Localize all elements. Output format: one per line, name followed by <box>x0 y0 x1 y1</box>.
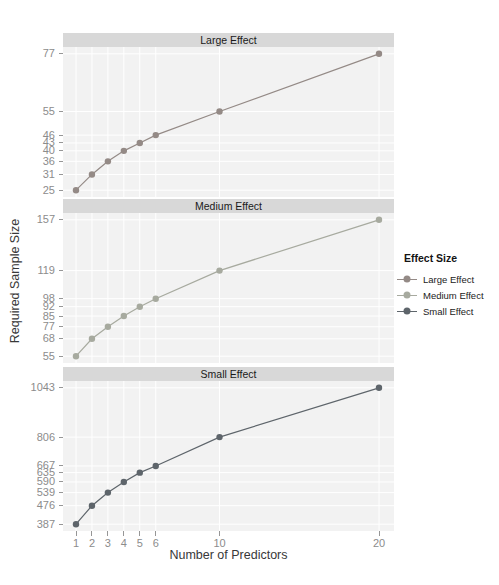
y-tick-label: 55 <box>0 106 55 117</box>
y-tick-label: 46 <box>0 130 55 141</box>
y-tick-label: 68 <box>0 333 55 344</box>
x-tick-mark <box>123 531 124 536</box>
x-tick-mark <box>107 531 108 536</box>
y-tick-label: 31 <box>0 169 55 180</box>
data-point <box>89 502 95 508</box>
y-tick-mark <box>59 465 63 466</box>
series-line <box>76 220 379 356</box>
data-point <box>137 469 143 475</box>
legend-item-medium-effect: Medium Effect <box>397 287 484 303</box>
y-tick-label: 119 <box>0 265 55 276</box>
legend-key <box>397 288 417 302</box>
x-tick-mark <box>91 531 92 536</box>
data-point <box>89 171 95 177</box>
point-marker-icon <box>404 308 411 315</box>
plot-canvas <box>63 47 394 197</box>
y-tick-mark <box>59 111 63 112</box>
y-tick-label: 476 <box>0 500 55 511</box>
legend-item-small-effect: Small Effect <box>397 303 484 319</box>
data-point <box>73 521 79 527</box>
data-point <box>216 108 222 114</box>
y-tick-mark <box>59 472 63 473</box>
data-point <box>153 463 159 469</box>
data-point <box>376 385 382 391</box>
data-point <box>137 304 143 310</box>
y-tick-mark <box>59 190 63 191</box>
plot-panel <box>63 213 394 363</box>
power-analysis-faceted-chart: Required Sample Size Large Effect Medium… <box>0 0 499 585</box>
x-tick-label: 20 <box>367 538 391 549</box>
data-point <box>121 479 127 485</box>
data-point <box>153 132 159 138</box>
x-tick-label: 6 <box>144 538 168 549</box>
y-tick-mark <box>59 356 63 357</box>
data-point <box>73 187 79 193</box>
y-tick-label: 85 <box>0 311 55 322</box>
y-tick-label: 1043 <box>0 382 55 393</box>
legend-label: Small Effect <box>423 306 474 317</box>
plot-canvas <box>63 381 394 531</box>
data-point <box>121 313 127 319</box>
y-tick-label: 157 <box>0 214 55 225</box>
y-tick-mark <box>59 219 63 220</box>
legend-label: Medium Effect <box>423 290 484 301</box>
data-point <box>105 324 111 330</box>
data-point <box>376 217 382 223</box>
x-tick-mark <box>139 531 140 536</box>
y-tick-label: 55 <box>0 351 55 362</box>
y-tick-mark <box>59 142 63 143</box>
y-tick-mark <box>59 387 63 388</box>
y-tick-mark <box>59 135 63 136</box>
y-tick-mark <box>59 270 63 271</box>
data-point <box>216 267 222 273</box>
y-tick-label: 667 <box>0 460 55 471</box>
y-tick-mark <box>59 437 63 438</box>
x-tick-mark <box>76 531 77 536</box>
y-tick-label: 77 <box>0 321 55 332</box>
y-tick-mark <box>59 53 63 54</box>
facet-strip-label: Small Effect <box>201 368 257 380</box>
legend: Effect Size Large Effect Medium Effect S… <box>390 252 484 319</box>
plot-panel <box>63 381 394 531</box>
y-tick-mark <box>59 174 63 175</box>
facet-strip: Large Effect <box>63 33 394 47</box>
y-tick-mark <box>59 316 63 317</box>
y-tick-mark <box>59 161 63 162</box>
y-tick-label: 539 <box>0 487 55 498</box>
y-tick-mark <box>59 492 63 493</box>
y-tick-mark <box>59 306 63 307</box>
legend-label: Large Effect <box>423 274 474 285</box>
facet-strip-label: Medium Effect <box>195 200 262 212</box>
y-tick-mark <box>59 524 63 525</box>
data-point <box>137 140 143 146</box>
x-tick-mark <box>379 531 380 536</box>
y-tick-label: 25 <box>0 185 55 196</box>
facet-strip: Medium Effect <box>63 199 394 213</box>
plot-panel <box>63 47 394 197</box>
y-tick-mark <box>59 326 63 327</box>
series-line <box>76 54 379 190</box>
series-line <box>76 388 379 524</box>
y-tick-label: 98 <box>0 293 55 304</box>
y-tick-mark <box>59 338 63 339</box>
x-axis-title: Number of Predictors <box>63 548 394 562</box>
data-point <box>73 353 79 359</box>
data-point <box>216 434 222 440</box>
x-tick-mark <box>155 531 156 536</box>
facet-strip-label: Large Effect <box>200 34 256 46</box>
y-tick-label: 36 <box>0 156 55 167</box>
x-tick-mark <box>219 531 220 536</box>
data-point <box>105 158 111 164</box>
data-point <box>376 51 382 57</box>
y-tick-mark <box>59 505 63 506</box>
point-marker-icon <box>404 276 411 283</box>
legend-key <box>397 304 417 318</box>
data-point <box>89 336 95 342</box>
y-tick-mark <box>59 481 63 482</box>
y-tick-label: 77 <box>0 48 55 59</box>
plot-canvas <box>63 213 394 363</box>
data-point <box>153 295 159 301</box>
point-marker-icon <box>404 292 411 299</box>
y-tick-label: 806 <box>0 432 55 443</box>
facet-strip: Small Effect <box>63 367 394 381</box>
